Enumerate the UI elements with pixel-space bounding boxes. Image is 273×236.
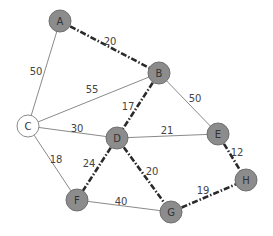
node-c: C bbox=[17, 115, 39, 137]
node-f: F bbox=[66, 189, 88, 211]
node-e: E bbox=[207, 123, 229, 145]
node-a: A bbox=[49, 10, 71, 32]
edge-weight-label: 20 bbox=[146, 166, 159, 177]
edge-weight-label: 30 bbox=[71, 123, 84, 134]
node-label: A bbox=[57, 16, 64, 27]
edge-weight-label: 24 bbox=[83, 158, 96, 169]
weighted-graph-diagram: 50205517503021182420124019 ABCDEHFG bbox=[0, 0, 273, 236]
node-label: H bbox=[242, 175, 250, 186]
node-d: D bbox=[106, 127, 128, 149]
node-label: C bbox=[25, 121, 32, 132]
node-label: E bbox=[215, 129, 221, 140]
edge-weight-label: 50 bbox=[30, 66, 43, 77]
edge-a-b bbox=[60, 21, 159, 73]
node-label: D bbox=[113, 133, 121, 144]
edge-weight-label: 20 bbox=[104, 36, 117, 47]
edge-weight-label: 21 bbox=[161, 125, 174, 136]
edge-weight-label: 17 bbox=[122, 101, 135, 112]
node-label: B bbox=[156, 68, 163, 79]
node-b: B bbox=[148, 62, 170, 84]
edge-weight-label: 12 bbox=[231, 147, 244, 158]
edge-weight-label: 50 bbox=[189, 93, 202, 104]
edge-c-b bbox=[28, 73, 159, 126]
node-g: G bbox=[160, 201, 182, 223]
node-label: F bbox=[74, 195, 80, 206]
edge-weight-label: 55 bbox=[86, 84, 99, 95]
node-h: H bbox=[235, 169, 257, 191]
edge-weight-label: 40 bbox=[115, 196, 128, 207]
edge-weight-label: 19 bbox=[197, 185, 210, 196]
edge-weight-label: 18 bbox=[50, 154, 63, 165]
node-label: G bbox=[167, 207, 175, 218]
edges-group bbox=[28, 21, 246, 212]
